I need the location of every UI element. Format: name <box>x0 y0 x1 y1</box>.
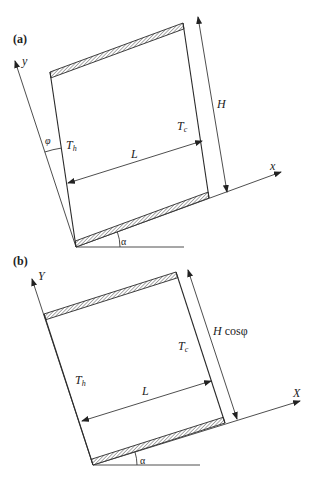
hot-wall-subscript: h <box>82 379 86 388</box>
tilt-angle-arc <box>135 452 137 465</box>
cold-wall-temperature-label: Tc <box>177 119 188 134</box>
width-label: L <box>130 147 138 161</box>
panel-b: (b) Y X Th Tc L H cosφ α <box>13 254 301 466</box>
width-label: L <box>141 384 149 398</box>
hot-wall <box>44 314 93 465</box>
bottom-insulated-wall <box>91 417 225 465</box>
skew-angle-arc <box>45 148 62 152</box>
cavity-diagram: (a) y x φ Th Tc L H α (b) <box>0 0 312 489</box>
hot-wall-temperature-label: Th <box>66 138 77 153</box>
hot-wall <box>50 72 76 247</box>
height-symbol: H <box>216 97 227 111</box>
x-axis-label: x <box>269 159 276 173</box>
y-axis <box>15 61 76 247</box>
cold-wall <box>183 23 209 198</box>
panel-label: (b) <box>13 254 28 268</box>
cold-wall-subscript: c <box>184 125 188 134</box>
cold-wall-subscript: c <box>185 345 189 354</box>
tilt-angle-arc <box>117 232 120 247</box>
tilt-angle-label: α <box>121 236 127 247</box>
height-suffix: cosφ <box>222 324 248 338</box>
bottom-insulated-wall <box>75 192 209 247</box>
cold-wall-temperature-label: Tc <box>178 339 189 354</box>
y-axis-label: y <box>21 54 28 68</box>
panel-label: (a) <box>13 32 27 46</box>
skew-angle-label: φ <box>45 135 51 146</box>
tilt-angle-label: α <box>140 455 146 466</box>
hot-wall-subscript: h <box>73 144 77 153</box>
top-insulated-wall <box>50 23 184 78</box>
panel-a: (a) y x φ Th Tc L H α <box>13 17 281 247</box>
height-dimension-arrow <box>188 270 237 419</box>
height-label: H cosφ <box>212 324 248 338</box>
y-axis-label: Y <box>38 269 46 283</box>
x-axis-label: X <box>292 386 301 400</box>
hot-wall-temperature-label: Th <box>75 373 86 388</box>
top-insulated-wall <box>44 272 178 320</box>
height-label: H <box>216 97 227 111</box>
